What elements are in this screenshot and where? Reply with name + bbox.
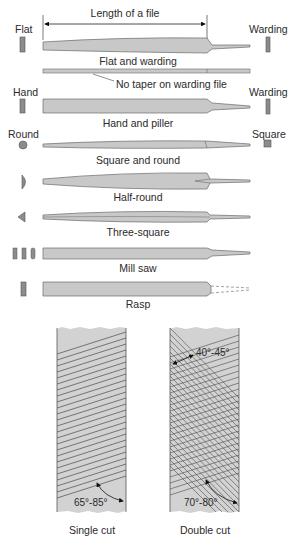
file-three-square	[18, 211, 250, 222]
mill-saw-section-icons	[13, 248, 35, 259]
file-square-round	[19, 140, 271, 149]
section-label-warding: Warding	[249, 23, 288, 35]
file-half-round	[22, 173, 250, 189]
file-flat	[20, 37, 270, 53]
angle-label-double-bottom: 70°-80°	[184, 497, 218, 509]
section-label-flat: Flat	[15, 23, 33, 35]
cut-name-single: Single cut	[69, 524, 115, 536]
half-round-section-icon	[22, 175, 26, 189]
file-name-three-square: Three-square	[106, 226, 169, 238]
section-label-hand: Hand	[13, 86, 38, 98]
file-name-flat-warding: Flat and warding	[99, 55, 177, 67]
square-section-icon	[264, 140, 271, 147]
section-label-warding-2: Warding	[249, 86, 288, 98]
file-name-square-round: Square and round	[96, 154, 180, 166]
section-label-round: Round	[8, 128, 39, 140]
warding-section-icon	[266, 37, 270, 52]
file-hand	[20, 99, 270, 114]
flat-section-icon	[20, 37, 25, 52]
cut-name-double: Double cut	[180, 524, 230, 536]
file-mill-saw	[13, 248, 250, 259]
section-label-square: Square	[252, 128, 286, 140]
round-section-icon	[19, 141, 27, 149]
warding-section-icon-2	[266, 99, 270, 114]
hand-section-icon	[20, 99, 25, 113]
file-name-rasp: Rasp	[126, 298, 151, 310]
taper-note: No taper on warding file	[116, 78, 227, 90]
length-of-file-label: Length of a file	[91, 7, 160, 19]
file-name-hand-piller: Hand and piller	[103, 117, 174, 129]
file-name-mill-saw: Mill saw	[119, 262, 156, 274]
single-cut-panel	[57, 327, 126, 513]
rasp-section-icon	[21, 282, 26, 296]
angle-label-single: 65°-85°	[74, 497, 108, 509]
angle-label-double-top: 40°-45°	[196, 347, 230, 359]
file-name-half-round: Half-round	[113, 191, 162, 203]
file-rasp	[21, 282, 250, 296]
three-square-section-icon	[18, 212, 25, 222]
